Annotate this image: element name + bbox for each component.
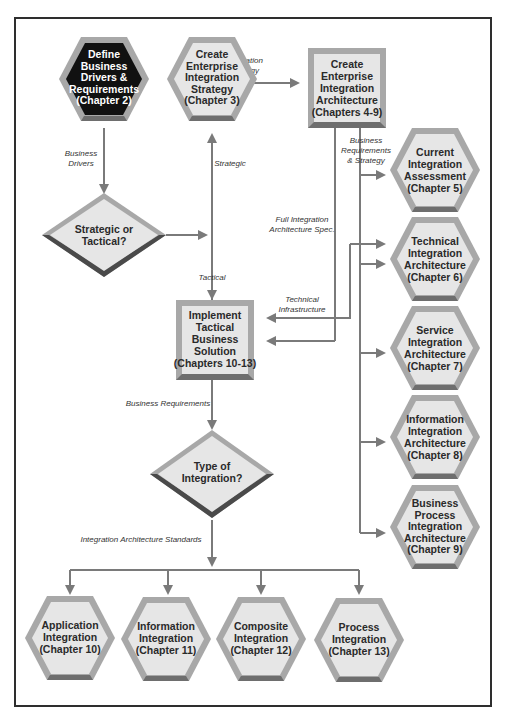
svg-text:ApplicationIntegration(Chapter: ApplicationIntegration(Chapter 10) (39, 619, 100, 655)
edge-label-full-spec: Full Integration (276, 215, 329, 224)
node-define-business-drivers: DefineBusinessDrivers &Requirements(Chap… (59, 37, 149, 121)
svg-text:BusinessRequirements& Strategy: BusinessRequirements& Strategy (341, 136, 391, 165)
edge-label-tactical: Tactical (199, 273, 226, 282)
node-application-integration: ApplicationIntegration(Chapter 10) (25, 596, 115, 680)
node-business-process-integration-architecture: BusinessProcessIntegrationArchitecture(C… (390, 485, 480, 569)
decision-type-of-integration: Type ofIntegration? (150, 430, 274, 518)
edge-label-standards: Integration Architecture Standards (80, 535, 201, 544)
node-process-integration: ProcessIntegration(Chapter 13) (314, 598, 404, 682)
svg-text:BusinessProcessIntegrationArch: BusinessProcessIntegrationArchitecture(C… (404, 497, 466, 555)
node-current-integration-assessment: CurrentIntegrationAssessment(Chapter 5) (390, 128, 480, 212)
node-implement-tactical-solution: ImplementTacticalBusinessSolution(Chapte… (174, 300, 256, 380)
svg-text:Full IntegrationArchitecture S: Full IntegrationArchitecture Spec. (268, 215, 334, 234)
edge-label-technical-infrastructure: Technical (285, 295, 319, 304)
node-information-integration-architecture: InformationIntegrationArchitecture(Chapt… (390, 395, 480, 479)
svg-text:InformationIntegrationArchitec: InformationIntegrationArchitecture(Chapt… (404, 413, 466, 461)
edge-label-strategic: Strategic (214, 159, 246, 168)
svg-text:InformationIntegration(Chapter: InformationIntegration(Chapter 11) (136, 620, 197, 656)
decision-strategic-or-tactical: Strategic orTactical? (42, 193, 166, 277)
flowchart: BusinessDrivers IntegrationStrategy Stra… (0, 0, 506, 719)
edge-label-business-req-strategy: Business (350, 136, 382, 145)
node-service-integration-architecture: ServiceIntegrationArchitecture(Chapter 7… (390, 306, 480, 390)
svg-text:TechnicalInfrastructure: TechnicalInfrastructure (278, 295, 326, 314)
node-composite-integration: CompositeIntegration(Chapter 12) (216, 597, 306, 681)
node-information-integration: InformationIntegration(Chapter 11) (121, 597, 211, 681)
svg-text:BusinessDrivers: BusinessDrivers (65, 149, 97, 168)
svg-text:TechnicalIntegrationArchitectu: TechnicalIntegrationArchitecture(Chapter… (404, 235, 466, 283)
svg-text:CompositeIntegration(Chapter 1: CompositeIntegration(Chapter 12) (230, 620, 291, 656)
svg-text:Strategic orTactical?: Strategic orTactical? (75, 223, 133, 247)
edge-label-business-drivers: Business (65, 149, 97, 158)
edge-label-business-requirements: Business Requirements (126, 399, 210, 408)
node-integration-strategy: CreateEnterpriseIntegrationStrategy(Chap… (167, 37, 257, 121)
node-integration-architecture: CreateEnterpriseIntegrationArchitecture(… (308, 48, 386, 128)
node-technical-integration-architecture: TechnicalIntegrationArchitecture(Chapter… (390, 217, 480, 301)
